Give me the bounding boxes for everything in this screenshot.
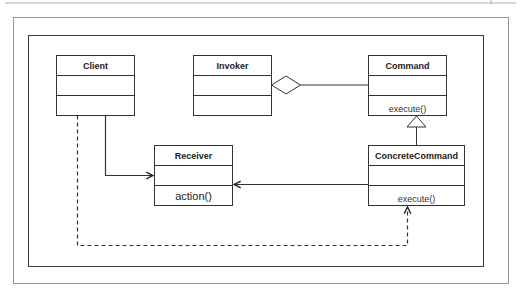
class-name-client: Client xyxy=(83,61,108,71)
class-name-invoker: Invoker xyxy=(216,61,249,71)
class-client: Client xyxy=(57,56,135,116)
operation-concrete-command-execute: execute() xyxy=(398,194,436,204)
operation-command-execute: execute() xyxy=(389,104,427,114)
operation-receiver-action: action() xyxy=(175,190,212,202)
class-invoker: Invoker xyxy=(194,56,272,116)
class-command: Command execute() xyxy=(369,56,447,116)
generalization-concrete-command-command xyxy=(407,116,426,146)
association-client-receiver xyxy=(106,116,154,176)
class-receiver: Receiver action() xyxy=(155,146,233,206)
dependency-client-concrete-command xyxy=(78,116,408,246)
class-concrete-command: ConcreteCommand execute() xyxy=(369,146,465,206)
class-name-concrete-command: ConcreteCommand xyxy=(375,151,458,161)
command-pattern-diagram: Client Invoker Command execute() Receive… xyxy=(0,0,524,297)
class-name-command: Command xyxy=(385,61,429,71)
aggregation-diamond-icon xyxy=(272,76,301,94)
class-name-receiver: Receiver xyxy=(175,151,213,161)
inheritance-triangle-icon xyxy=(407,116,426,127)
aggregation-invoker-command xyxy=(272,76,369,94)
